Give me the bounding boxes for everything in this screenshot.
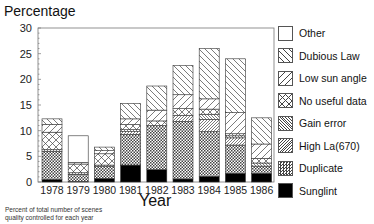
legend-item-other: Other bbox=[278, 22, 367, 45]
segment-low-sun-angle bbox=[121, 119, 141, 125]
legend-swatch bbox=[278, 93, 293, 108]
segment-dubious-law bbox=[173, 65, 193, 94]
y-tick-label: 30 bbox=[20, 22, 32, 34]
segment-duplicate bbox=[94, 167, 114, 179]
segment-sunglint bbox=[147, 170, 167, 182]
segment-no-useful-data bbox=[94, 154, 114, 165]
legend-swatch bbox=[278, 71, 293, 86]
y-tick-label: 20 bbox=[20, 73, 32, 85]
x-tick-label: 1978 bbox=[40, 184, 64, 196]
segment-high-la-670- bbox=[199, 119, 219, 131]
segment-duplicate bbox=[225, 145, 245, 173]
segment-no-useful-data bbox=[121, 125, 141, 130]
legend-label: Duplicate bbox=[299, 162, 343, 174]
segment-gain-error bbox=[225, 136, 245, 138]
legend-item-gain-error: Gain error bbox=[278, 112, 367, 135]
bar-1982 bbox=[147, 86, 167, 182]
x-tick-label: 1986 bbox=[250, 184, 274, 196]
legend-swatch bbox=[278, 138, 293, 153]
segment-low-sun-angle bbox=[147, 110, 167, 121]
bar-1984 bbox=[199, 49, 219, 182]
segment-duplicate bbox=[68, 174, 88, 181]
segment-sunglint bbox=[121, 165, 141, 182]
x-tick-label: 1980 bbox=[93, 184, 117, 196]
bar-1981 bbox=[121, 103, 141, 182]
legend: OtherDubious LawLow sun angleNo useful d… bbox=[278, 22, 367, 202]
segment-high-la-670- bbox=[173, 115, 193, 121]
segment-low-sun-angle bbox=[42, 125, 62, 133]
legend-label: Dubious Law bbox=[299, 50, 360, 62]
segment-gain-error bbox=[252, 163, 272, 166]
segment-no-useful-data bbox=[42, 132, 62, 149]
segment-low-sun-angle bbox=[199, 99, 219, 109]
segment-no-useful-data bbox=[199, 109, 219, 114]
caption: Percent of total number of scenes qualit… bbox=[5, 206, 102, 222]
segment-duplicate bbox=[121, 134, 141, 165]
segment-dubious-law bbox=[199, 49, 219, 99]
legend-item-no-useful-data: No useful data bbox=[278, 90, 367, 113]
segment-sunglint bbox=[252, 173, 272, 182]
segment-dubious-law bbox=[42, 119, 62, 125]
legend-label: Low sun angle bbox=[299, 72, 367, 84]
segment-low-sun-angle bbox=[225, 113, 245, 134]
segment-high-la-670- bbox=[121, 132, 141, 135]
legend-item-dubious-law: Dubious Law bbox=[278, 45, 367, 68]
segment-no-useful-data bbox=[68, 164, 88, 173]
legend-swatch bbox=[278, 26, 293, 41]
legend-item-low-sun-angle: Low sun angle bbox=[278, 67, 367, 90]
legend-label: Gain error bbox=[299, 117, 346, 129]
segment-duplicate bbox=[199, 132, 219, 177]
segment-sunglint bbox=[225, 173, 245, 182]
legend-label: Sunglint bbox=[299, 185, 337, 197]
bar-1983 bbox=[173, 65, 193, 182]
segment-dubious-law bbox=[94, 147, 114, 151]
segment-dubious-law bbox=[147, 86, 167, 110]
bars bbox=[42, 49, 272, 182]
bar-1980 bbox=[94, 147, 114, 182]
y-tick-label: 25 bbox=[20, 48, 32, 60]
y-axis-label: Percentage bbox=[4, 3, 76, 19]
legend-label: High La(670) bbox=[299, 140, 360, 152]
y-tick-label: 15 bbox=[20, 99, 32, 111]
segment-low-sun-angle bbox=[252, 144, 272, 158]
segment-no-useful-data bbox=[252, 158, 272, 163]
legend-swatch bbox=[278, 161, 293, 176]
segment-other bbox=[68, 136, 88, 163]
segment-sunglint bbox=[173, 179, 193, 182]
segment-low-sun-angle bbox=[94, 151, 114, 154]
x-tick-label: 1979 bbox=[67, 184, 91, 196]
legend-swatch bbox=[278, 183, 293, 198]
segment-sunglint bbox=[94, 178, 114, 182]
legend-item-high-la-670-: High La(670) bbox=[278, 135, 367, 158]
segment-dubious-law bbox=[252, 118, 272, 144]
legend-label: No useful data bbox=[299, 95, 367, 107]
legend-label: Other bbox=[299, 27, 325, 39]
y-tick-label: 5 bbox=[26, 150, 32, 162]
x-axis-label: Year bbox=[139, 192, 171, 210]
x-tick-label: 1984 bbox=[198, 184, 222, 196]
segment-duplicate bbox=[42, 151, 62, 179]
legend-item-duplicate: Duplicate bbox=[278, 157, 367, 180]
segment-no-useful-data bbox=[225, 134, 245, 136]
segment-no-useful-data bbox=[147, 121, 167, 126]
segment-dubious-law bbox=[121, 103, 141, 118]
x-tick-label: 1983 bbox=[171, 184, 195, 196]
bar-1978 bbox=[42, 119, 62, 182]
segment-sunglint bbox=[42, 179, 62, 182]
segment-no-useful-data bbox=[173, 109, 193, 116]
caption-line-2: quality controlled for each year bbox=[5, 214, 102, 222]
y-tick-label: 10 bbox=[20, 125, 32, 137]
segment-duplicate bbox=[147, 126, 167, 170]
segment-duplicate bbox=[173, 121, 193, 178]
bar-1986 bbox=[252, 118, 272, 182]
segment-low-sun-angle bbox=[173, 95, 193, 109]
segment-gain-error bbox=[199, 114, 219, 119]
x-tick-label: 1985 bbox=[224, 184, 248, 196]
y-tick-label: 0 bbox=[26, 176, 32, 188]
segment-dubious-law bbox=[225, 59, 245, 113]
segment-duplicate bbox=[252, 166, 272, 173]
legend-item-sunglint: Sunglint bbox=[278, 180, 367, 203]
segment-high-la-670- bbox=[225, 138, 245, 145]
legend-swatch bbox=[278, 48, 293, 63]
bar-1979 bbox=[68, 136, 88, 182]
